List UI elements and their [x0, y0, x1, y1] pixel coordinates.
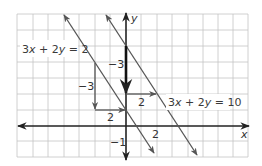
coordinate-graph: 3x + 2y = 2 3x + 2y = 10 −3 2 −3 2 2 −1 … [0, 0, 262, 166]
x-tick-label: 2 [152, 128, 159, 141]
run-label-right: 2 [138, 96, 145, 109]
y-tick-label: −1 [110, 136, 126, 149]
equation-label-1: 3x + 2y = 2 [22, 43, 88, 56]
rise-label-right: −3 [108, 58, 124, 71]
y-axis-label: y [130, 12, 138, 25]
x-axis-label: x [240, 128, 248, 141]
equation-label-2: 3x + 2y = 10 [168, 96, 241, 109]
run-label-left: 2 [107, 111, 114, 124]
grid [17, 14, 248, 157]
rise-label-left: −3 [78, 80, 94, 93]
